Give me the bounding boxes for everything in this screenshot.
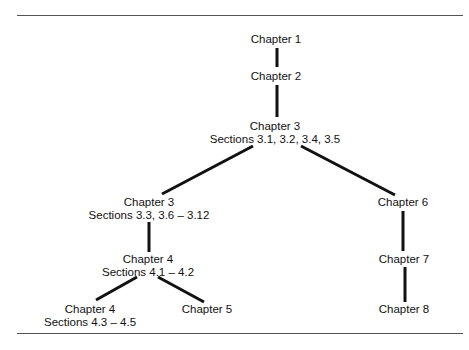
node-title: Chapter 1	[251, 33, 302, 46]
edge-ch4-ch5	[158, 277, 204, 302]
node-title: Chapter 3	[89, 196, 210, 209]
node-chapter-5: Chapter 5	[182, 303, 233, 316]
node-chapter-2: Chapter 2	[251, 70, 302, 83]
node-title: Chapter 4	[44, 303, 136, 316]
node-subtitle: Sections 4.1 – 4.2	[102, 266, 194, 279]
edge-ch3-ch3b	[162, 146, 253, 194]
node-subtitle: Sections 3.1, 3.2, 3.4, 3.5	[210, 133, 340, 146]
node-title: Chapter 6	[378, 196, 429, 209]
node-chapter-7: Chapter 7	[379, 253, 430, 266]
edge-ch3-ch6	[301, 146, 395, 195]
node-title: Chapter 5	[182, 303, 233, 316]
node-title: Chapter 2	[251, 70, 302, 83]
node-chapter-6: Chapter 6	[378, 196, 429, 209]
node-title: Chapter 8	[379, 303, 430, 316]
node-chapter-4-branch: Chapter 4 Sections 4.3 – 4.5	[44, 303, 136, 329]
node-chapter-1: Chapter 1	[251, 33, 302, 46]
node-chapter-4-main: Chapter 4 Sections 4.1 – 4.2	[102, 253, 194, 279]
node-chapter-8: Chapter 8	[379, 303, 430, 316]
node-subtitle: Sections 3.3, 3.6 – 3.12	[89, 209, 210, 222]
node-subtitle: Sections 4.3 – 4.5	[44, 316, 136, 329]
edge-ch4-ch4b	[96, 277, 137, 300]
node-title: Chapter 4	[102, 253, 194, 266]
node-chapter-3-branch: Chapter 3 Sections 3.3, 3.6 – 3.12	[89, 196, 210, 222]
node-title: Chapter 3	[210, 120, 340, 133]
node-chapter-3-main: Chapter 3 Sections 3.1, 3.2, 3.4, 3.5	[210, 120, 340, 146]
node-title: Chapter 7	[379, 253, 430, 266]
tree-edges	[0, 0, 469, 350]
